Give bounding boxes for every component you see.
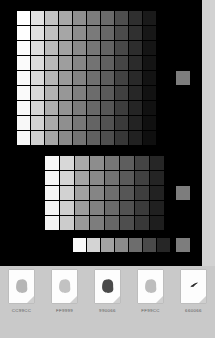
swatch[interactable] bbox=[59, 26, 72, 40]
swatch[interactable] bbox=[150, 216, 164, 230]
swatch[interactable] bbox=[17, 71, 30, 85]
solo-swatch-3[interactable] bbox=[176, 238, 190, 252]
swatch[interactable] bbox=[129, 131, 142, 145]
swatch[interactable] bbox=[73, 101, 86, 115]
swatch[interactable] bbox=[143, 86, 156, 100]
swatch[interactable] bbox=[143, 11, 156, 25]
thumbnail-cell[interactable]: 990066 bbox=[88, 270, 128, 313]
swatch[interactable] bbox=[115, 131, 128, 145]
swatch[interactable] bbox=[115, 56, 128, 70]
swatch[interactable] bbox=[31, 101, 44, 115]
swatch[interactable] bbox=[73, 86, 86, 100]
thumbnail-card[interactable] bbox=[181, 270, 206, 303]
swatch[interactable] bbox=[115, 101, 128, 115]
swatch[interactable] bbox=[115, 238, 128, 252]
swatch[interactable] bbox=[45, 11, 58, 25]
swatch[interactable] bbox=[90, 171, 104, 185]
swatch[interactable] bbox=[129, 238, 142, 252]
swatch[interactable] bbox=[73, 238, 86, 252]
thumbnail-card[interactable] bbox=[52, 270, 77, 303]
swatch[interactable] bbox=[87, 131, 100, 145]
swatch[interactable] bbox=[120, 186, 134, 200]
swatch[interactable] bbox=[129, 41, 142, 55]
thumbnail-card[interactable] bbox=[9, 270, 34, 303]
swatch[interactable] bbox=[31, 116, 44, 130]
swatch[interactable] bbox=[129, 116, 142, 130]
swatch[interactable] bbox=[115, 11, 128, 25]
swatch[interactable] bbox=[17, 116, 30, 130]
swatch[interactable] bbox=[60, 201, 74, 215]
swatch[interactable] bbox=[45, 156, 59, 170]
swatch[interactable] bbox=[17, 101, 30, 115]
swatch[interactable] bbox=[101, 131, 114, 145]
swatch[interactable] bbox=[75, 171, 89, 185]
swatch[interactable] bbox=[31, 41, 44, 55]
swatch[interactable] bbox=[87, 101, 100, 115]
swatch[interactable] bbox=[45, 116, 58, 130]
swatch[interactable] bbox=[87, 56, 100, 70]
solo-swatch-2[interactable] bbox=[176, 186, 190, 200]
swatch[interactable] bbox=[150, 201, 164, 215]
swatch[interactable] bbox=[150, 156, 164, 170]
swatch[interactable] bbox=[31, 11, 44, 25]
swatch[interactable] bbox=[120, 156, 134, 170]
swatch[interactable] bbox=[129, 11, 142, 25]
swatch[interactable] bbox=[120, 171, 134, 185]
swatch[interactable] bbox=[59, 71, 72, 85]
swatch[interactable] bbox=[73, 11, 86, 25]
swatch[interactable] bbox=[87, 11, 100, 25]
swatch[interactable] bbox=[143, 131, 156, 145]
swatch[interactable] bbox=[17, 131, 30, 145]
swatch[interactable] bbox=[135, 156, 149, 170]
swatch[interactable] bbox=[105, 171, 119, 185]
swatch[interactable] bbox=[143, 41, 156, 55]
swatch[interactable] bbox=[59, 86, 72, 100]
swatch[interactable] bbox=[101, 11, 114, 25]
swatch[interactable] bbox=[157, 238, 170, 252]
swatch[interactable] bbox=[129, 101, 142, 115]
swatch[interactable] bbox=[45, 86, 58, 100]
main-swatch-grid[interactable] bbox=[17, 11, 156, 145]
swatch[interactable] bbox=[87, 116, 100, 130]
swatch[interactable] bbox=[143, 101, 156, 115]
swatch[interactable] bbox=[135, 216, 149, 230]
swatch[interactable] bbox=[73, 131, 86, 145]
swatch[interactable] bbox=[87, 71, 100, 85]
swatch[interactable] bbox=[87, 238, 100, 252]
swatch[interactable] bbox=[87, 41, 100, 55]
swatch[interactable] bbox=[87, 86, 100, 100]
swatch[interactable] bbox=[31, 71, 44, 85]
swatch[interactable] bbox=[45, 186, 59, 200]
swatch[interactable] bbox=[105, 201, 119, 215]
swatch[interactable] bbox=[143, 238, 156, 252]
swatch[interactable] bbox=[101, 26, 114, 40]
swatch[interactable] bbox=[143, 116, 156, 130]
swatch[interactable] bbox=[129, 71, 142, 85]
swatch[interactable] bbox=[60, 216, 74, 230]
swatch[interactable] bbox=[17, 86, 30, 100]
swatch[interactable] bbox=[31, 86, 44, 100]
swatch[interactable] bbox=[115, 71, 128, 85]
swatch[interactable] bbox=[75, 186, 89, 200]
bottom-swatch-strip[interactable] bbox=[73, 238, 170, 252]
swatch[interactable] bbox=[90, 216, 104, 230]
swatch[interactable] bbox=[75, 216, 89, 230]
swatch[interactable] bbox=[45, 101, 58, 115]
swatch[interactable] bbox=[143, 26, 156, 40]
swatch[interactable] bbox=[45, 56, 58, 70]
swatch[interactable] bbox=[45, 41, 58, 55]
swatch[interactable] bbox=[101, 41, 114, 55]
swatch[interactable] bbox=[120, 201, 134, 215]
swatch[interactable] bbox=[115, 86, 128, 100]
swatch[interactable] bbox=[31, 131, 44, 145]
swatch[interactable] bbox=[45, 26, 58, 40]
swatch[interactable] bbox=[45, 201, 59, 215]
swatch[interactable] bbox=[150, 171, 164, 185]
thumbnail-card[interactable] bbox=[95, 270, 120, 303]
swatch[interactable] bbox=[101, 101, 114, 115]
swatch[interactable] bbox=[73, 116, 86, 130]
swatch[interactable] bbox=[45, 216, 59, 230]
swatch[interactable] bbox=[60, 156, 74, 170]
swatch[interactable] bbox=[115, 26, 128, 40]
swatch[interactable] bbox=[101, 116, 114, 130]
